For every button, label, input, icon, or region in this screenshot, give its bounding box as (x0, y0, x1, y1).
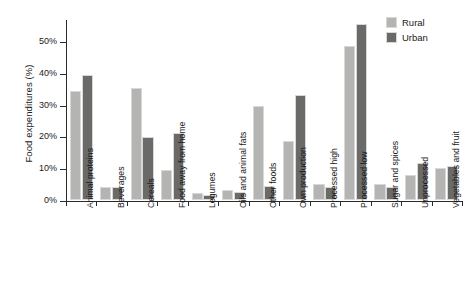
x-tick (127, 201, 128, 206)
x-axis-label: Own production (298, 147, 308, 208)
bar-rural (374, 184, 385, 200)
y-tick-label: 0% (44, 195, 57, 205)
y-tick-label: 20% (39, 131, 57, 141)
x-tick (218, 201, 219, 206)
bar-rural (192, 193, 203, 200)
x-axis-label: Animal proteins (85, 148, 95, 208)
bar-rural (405, 175, 416, 200)
y-tick-label: 50% (39, 36, 57, 46)
x-axis-label: Cereals (146, 178, 156, 208)
x-tick (310, 201, 311, 206)
bar-rural (161, 170, 172, 200)
x-axis-label: Processed high (329, 148, 339, 208)
x-tick (96, 201, 97, 206)
legend-item-urban: Urban (386, 32, 428, 43)
x-tick (401, 201, 402, 206)
legend: Rural Urban (386, 17, 428, 47)
y-tick: 40% (60, 74, 66, 75)
x-tick (340, 201, 341, 206)
y-tick-label: 30% (39, 100, 57, 110)
bar-rural (283, 141, 294, 200)
y-tick: 20% (60, 137, 66, 138)
x-axis-label: Unprocessed (420, 157, 430, 208)
x-axis-label: Legumes (207, 172, 217, 208)
y-tick: 50% (60, 42, 66, 43)
x-tick (279, 201, 280, 206)
x-tick (432, 201, 433, 206)
x-tick (462, 201, 463, 206)
legend-swatch-rural-icon (386, 17, 397, 28)
x-axis-label: Sugar and spices (390, 141, 400, 208)
bar-chart: Food expenditures (%) 0%10%20%30%40%50% … (0, 0, 470, 306)
x-tick (371, 201, 372, 206)
y-tick-label: 40% (39, 68, 57, 78)
legend-label-urban: Urban (402, 32, 428, 43)
x-axis-label: Food away from home (177, 122, 187, 208)
bar-rural (100, 187, 111, 200)
legend-label-rural: Rural (402, 17, 425, 28)
bar-rural (313, 184, 324, 200)
x-axis-label: Oils and animal fats (238, 132, 248, 208)
x-tick (249, 201, 250, 206)
y-tick: 10% (60, 169, 66, 170)
bar-rural (70, 91, 81, 200)
x-axis-label: Vegetables and fruit (451, 131, 461, 208)
x-tick (66, 201, 67, 206)
y-tick: 30% (60, 106, 66, 107)
x-tick (157, 201, 158, 206)
bar-rural (253, 106, 264, 200)
legend-item-rural: Rural (386, 17, 428, 28)
x-axis-label: Beverages (116, 166, 126, 208)
bar-rural (222, 190, 233, 200)
x-tick (188, 201, 189, 206)
bar-rural (344, 46, 355, 200)
y-tick-label: 10% (39, 163, 57, 173)
bar-rural (435, 168, 446, 200)
x-axis-label: Other foods (268, 163, 278, 208)
x-axis-label: Processed low (359, 151, 369, 208)
legend-swatch-urban-icon (386, 32, 397, 43)
bar-rural (131, 88, 142, 200)
y-axis-title: Food expenditures (%) (23, 34, 34, 194)
y-axis-line (66, 20, 67, 202)
